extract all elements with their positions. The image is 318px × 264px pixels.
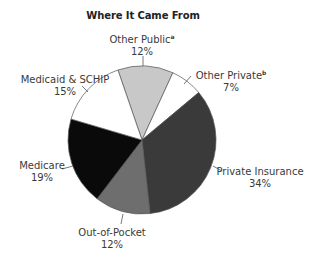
value-other-private: 7% (186, 82, 276, 94)
label-other-public: Other Publica 12% (102, 31, 182, 58)
value-out-of-pocket: 12% (62, 239, 162, 251)
value-medicare: 19% (12, 172, 72, 184)
label-medicaid-schip: Medicaid & SCHIP 15% (15, 74, 115, 98)
value-other-public: 12% (102, 46, 182, 58)
value-private-insurance: 34% (210, 178, 310, 190)
label-out-of-pocket: Out-of-Pocket 12% (62, 227, 162, 251)
label-private-insurance: Private Insurance 34% (210, 166, 310, 190)
leader-out-of-pocket (121, 214, 123, 224)
value-medicaid-schip: 15% (15, 86, 115, 98)
label-medicare: Medicare 19% (12, 160, 72, 184)
label-other-private: Other Privateb 7% (186, 67, 276, 94)
